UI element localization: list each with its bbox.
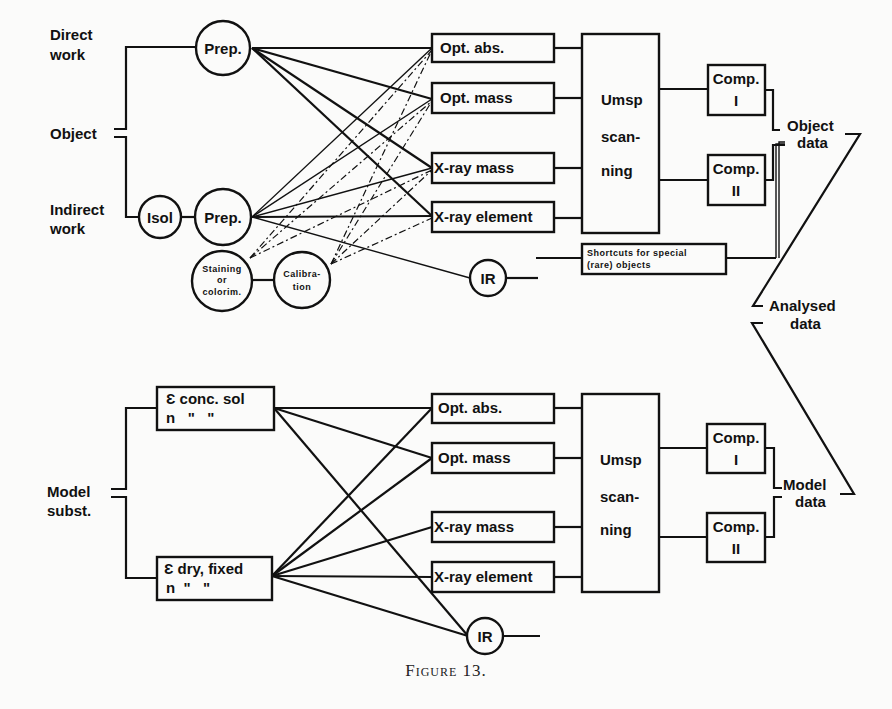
chevron-lower <box>752 323 854 494</box>
source-conc-sol: Ɛ conc. sol n " " <box>157 387 274 430</box>
bracket-model-conc <box>111 408 157 489</box>
comp-1-top: Comp. I <box>708 65 765 115</box>
svg-text:Comp.: Comp. <box>713 429 760 446</box>
svg-text:Comp.: Comp. <box>713 518 760 535</box>
method-xray-element-top: X-ray element <box>432 202 582 232</box>
svg-text:Opt. mass: Opt. mass <box>438 449 511 466</box>
svg-text:ning: ning <box>601 162 633 179</box>
comp-1-bottom: Comp. I <box>707 424 765 473</box>
connections-dashed <box>250 50 432 264</box>
svg-text:X-ray element: X-ray element <box>434 568 532 585</box>
method-xray-element-bottom: X-ray element <box>432 562 582 592</box>
svg-text:I: I <box>734 451 738 468</box>
node-ir-bottom: IR <box>467 618 540 654</box>
label-analysed-1: Analysed <box>769 297 836 314</box>
method-opt-mass-top: Opt. mass <box>432 83 582 113</box>
svg-text:(rare) objects: (rare) objects <box>587 260 651 270</box>
label-model-subst-2: subst. <box>47 502 91 519</box>
workflow-diagram: Direct work Object Indirect work <box>0 0 892 709</box>
connector-shortcut-object <box>776 144 785 258</box>
svg-text:Staining: Staining <box>202 264 242 274</box>
svg-text:Comp.: Comp. <box>713 70 760 87</box>
svg-text:Umsp: Umsp <box>600 451 642 468</box>
method-opt-abs-top: Opt. abs. <box>432 34 582 62</box>
connector-comp2-model <box>765 497 782 537</box>
label-direct-work-2: work <box>49 46 86 63</box>
svg-text:scan-: scan- <box>600 488 639 505</box>
svg-text:Prep.: Prep. <box>204 40 242 57</box>
label-indirect-work-2: work <box>49 220 86 237</box>
connector-comp1-object <box>765 90 780 130</box>
svg-text:Comp.: Comp. <box>713 160 760 177</box>
svg-text:Ɛ conc. sol: Ɛ conc. sol <box>166 390 245 407</box>
analysed-data-group: Analysed data <box>752 134 860 494</box>
bracket-object-indirect <box>114 137 142 217</box>
node-calibration: Calibra- tion <box>274 252 330 308</box>
label-direct-work-1: Direct <box>50 26 93 43</box>
scanner-bottom: Umsp scan- ning <box>582 394 659 592</box>
shortcut-box: Shortcuts for special (rare) objects <box>536 244 776 274</box>
svg-text:II: II <box>732 182 740 199</box>
method-opt-abs-bottom: Opt. abs. <box>432 394 582 423</box>
label-model-data-1: Model <box>783 476 826 493</box>
comp-2-top: Comp. II <box>708 155 765 205</box>
source-dry-fixed: Ɛ dry, fixed n " " <box>157 557 272 600</box>
node-prep-direct: Prep. <box>196 21 250 75</box>
svg-text:n " ": n " " <box>166 579 210 596</box>
method-xray-mass-top: X-ray mass <box>432 153 582 183</box>
svg-text:Ɛ dry, fixed: Ɛ dry, fixed <box>164 560 243 577</box>
svg-text:Shortcuts for special: Shortcuts for special <box>587 248 687 258</box>
chevron-upper <box>753 134 860 306</box>
svg-text:Prep.: Prep. <box>204 209 242 226</box>
label-object-data-1: Object <box>787 117 834 134</box>
label-model-data-2: data <box>795 493 827 510</box>
svg-text:tion: tion <box>293 282 312 292</box>
bracket-object-direct <box>114 47 196 129</box>
svg-text:Calibra-: Calibra- <box>283 269 321 279</box>
bracket-model-dry <box>111 497 157 578</box>
node-staining: Staining or colorim. <box>192 251 252 311</box>
svg-text:I: I <box>734 92 738 109</box>
svg-text:X-ray element: X-ray element <box>434 208 532 225</box>
connector-comp1-model <box>765 448 782 488</box>
node-isol: Isol <box>139 196 181 238</box>
svg-text:scan-: scan- <box>601 128 640 145</box>
svg-text:n " ": n " " <box>166 409 214 426</box>
label-object: Object <box>50 125 97 142</box>
method-xray-mass-bottom: X-ray mass <box>432 512 582 542</box>
svg-text:or: or <box>217 275 227 285</box>
scanner-top: Umsp scan- ning <box>582 34 659 233</box>
comp-2-bottom: Comp. II <box>707 513 765 562</box>
label-object-data-2: data <box>797 134 829 151</box>
node-ir-top: IR <box>470 260 538 296</box>
label-model-subst-1: Model <box>47 483 90 500</box>
connector-comp2-object <box>765 145 785 180</box>
svg-text:X-ray mass: X-ray mass <box>434 518 514 535</box>
figure-caption: Figure 13. <box>405 661 487 680</box>
method-opt-mass-bottom: Opt. mass <box>432 443 582 473</box>
svg-text:IR: IR <box>478 628 493 645</box>
node-prep-indirect: Prep. <box>195 189 251 245</box>
bottom-section: Model subst. Ɛ conc. sol n " " Ɛ dry, fi… <box>47 387 827 654</box>
svg-text:colorim.: colorim. <box>202 287 241 297</box>
svg-text:X-ray mass: X-ray mass <box>434 159 514 176</box>
svg-text:IR: IR <box>481 270 496 287</box>
label-analysed-2: data <box>790 315 822 332</box>
top-section: Direct work Object Indirect work <box>49 21 834 311</box>
svg-text:Umsp: Umsp <box>601 91 643 108</box>
svg-text:Isol: Isol <box>147 209 173 226</box>
svg-text:II: II <box>732 540 740 557</box>
svg-text:Opt. mass: Opt. mass <box>440 89 513 106</box>
svg-text:Opt. abs.: Opt. abs. <box>438 399 502 416</box>
svg-text:ning: ning <box>600 521 632 538</box>
svg-text:Opt. abs.: Opt. abs. <box>440 39 504 56</box>
label-indirect-work-1: Indirect <box>50 201 104 218</box>
